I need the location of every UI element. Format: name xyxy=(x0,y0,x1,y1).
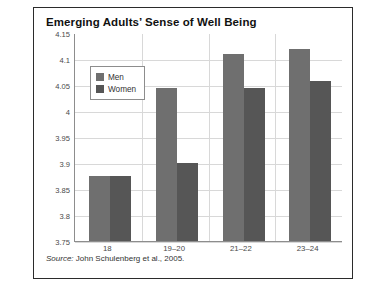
source-label: Source: xyxy=(46,254,74,263)
y-axis-tick-label: 3.8 xyxy=(59,212,70,221)
x-axis-tick-label: 18 xyxy=(103,244,112,253)
chart-legend: MenWomen xyxy=(90,66,145,100)
bar-group xyxy=(142,34,209,241)
legend-swatch-icon xyxy=(96,85,104,93)
source-citation: John Schulenberg et al., 2005. xyxy=(74,254,185,263)
legend-item: Women xyxy=(96,83,136,95)
y-axis-tick-label: 3.85 xyxy=(55,186,70,195)
bar-women xyxy=(177,163,198,241)
bar-men xyxy=(156,88,177,241)
bar-women xyxy=(310,81,331,241)
legend-item: Men xyxy=(96,71,136,83)
source-note: Source: John Schulenberg et al., 2005. xyxy=(46,254,184,263)
bar-group xyxy=(275,34,342,241)
y-axis-tick-label: 3.9 xyxy=(59,160,70,169)
x-axis-tick-label: 19–20 xyxy=(163,244,185,253)
plot-wrapper: 4.154.14.0543.953.93.853.83.75 1819–2021… xyxy=(46,34,342,242)
page-title: Emerging Adults’ Sense of Well Being xyxy=(46,16,257,28)
x-axis-tick-label: 23–24 xyxy=(297,244,319,253)
legend-label: Men xyxy=(108,73,124,82)
legend-label: Women xyxy=(108,85,136,94)
bar-women xyxy=(244,88,265,241)
y-axis-tick-label: 3.95 xyxy=(55,134,70,143)
y-axis-tick-label: 4 xyxy=(66,108,70,117)
y-axis-tick-label: 4.1 xyxy=(59,56,70,65)
x-axis-tick-label: 21–22 xyxy=(230,244,252,253)
gridline xyxy=(75,242,342,243)
bar-group xyxy=(209,34,276,241)
figure-container: Emerging Adults’ Sense of Well Being 4.1… xyxy=(33,7,353,279)
y-axis-tick-label: 4.05 xyxy=(55,82,70,91)
legend-swatch-icon xyxy=(96,73,104,81)
bar-women xyxy=(110,176,131,241)
bar-men xyxy=(223,54,244,241)
bar-men xyxy=(89,176,110,241)
y-axis: 4.154.14.0543.953.93.853.83.75 xyxy=(46,34,72,242)
y-axis-tick-label: 3.75 xyxy=(55,238,70,247)
bar-men xyxy=(289,49,310,241)
y-axis-tick-label: 4.15 xyxy=(55,30,70,39)
